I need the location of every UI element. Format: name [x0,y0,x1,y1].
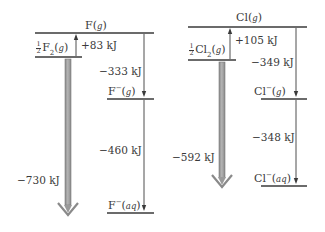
label-cl-minus-aq: Cl−(aq) [254,172,291,184]
value-overall-f: −730 kJ [17,175,60,186]
big-arrow-down-icon [58,59,78,215]
fraction-one-half: 12 [189,44,194,57]
value-atomization-cl: +105 kJ [235,35,278,46]
value-hydration-f: −460 kJ [99,145,142,156]
label-f-minus-gas: F−(g) [108,85,136,97]
species-symbol: Cl [254,172,266,185]
arrow-up-icon [74,34,78,56]
fraction-one-half: 12 [36,42,41,55]
label-f-minus-aq: F−(aq) [108,199,141,211]
species-symbol: F [108,85,116,98]
value-atomization-f: +83 kJ [81,40,117,51]
arrow-down-icon [142,100,146,211]
arrow-down-icon [294,28,298,97]
arrow-down-icon [142,34,146,97]
species-symbol: Cl [195,43,207,56]
state-symbol: aq [276,174,287,184]
value-hydration-cl: −348 kJ [252,132,295,143]
species-symbol: F [108,199,116,212]
value-electron-affinity-cl: −349 kJ [251,57,294,68]
label-half-f2: 12F2(g) [36,42,68,57]
value-electron-affinity-f: −333 kJ [99,66,142,77]
species-symbol: F [42,41,50,54]
fluorine-panel [35,33,154,215]
arrow-up-icon [228,28,232,59]
species-symbol: Cl [236,11,248,24]
state-symbol: aq [126,201,137,211]
big-arrow-down-icon [212,62,232,187]
species-symbol: F [85,19,93,32]
label-f-gas: F(g) [85,20,107,31]
label-cl-minus-gas: Cl−(g) [254,85,286,97]
species-symbol: Cl [254,85,266,98]
value-overall-cl: −592 kJ [172,152,215,163]
label-half-cl2: 12Cl2(g) [189,44,226,59]
energy-diagram: F(g) 12F2(g) +83 kJ −333 kJ F−(g) −460 k… [0,0,325,232]
label-cl-gas: Cl(g) [236,12,262,23]
